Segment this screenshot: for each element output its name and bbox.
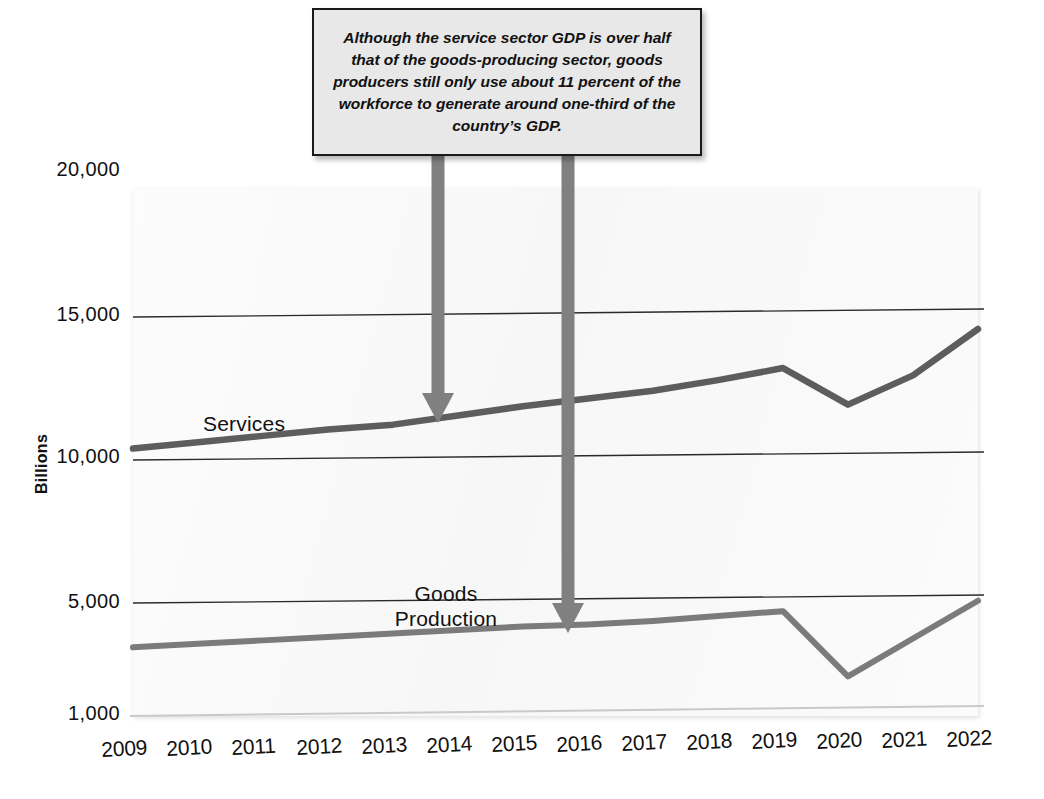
x-tick-label-2019: 2019 (751, 728, 798, 755)
x-axis-baseline (130, 706, 984, 716)
series-label-goods-line1: Goods (376, 582, 516, 606)
arrow-to-goods-shaft (562, 156, 575, 603)
x-tick-label-2018: 2018 (686, 729, 733, 756)
callout-arrows-group (422, 156, 584, 633)
x-tick-label-2017: 2017 (621, 729, 668, 756)
x-tick-label-2009: 2009 (101, 735, 148, 762)
gridlines-group (133, 309, 984, 603)
x-tick-label-2015: 2015 (491, 731, 538, 758)
x-tick-label-2013: 2013 (361, 732, 408, 759)
baseline-line (130, 706, 984, 716)
x-tick-label-2020: 2020 (816, 727, 863, 754)
series-label-services: Services (203, 412, 285, 436)
x-tick-label-2011: 2011 (231, 734, 277, 760)
x-tick-label-2012: 2012 (296, 733, 343, 760)
gridline-5000 (133, 595, 984, 603)
x-tick-label-2022: 2022 (946, 725, 993, 752)
x-tick-label-2016: 2016 (556, 730, 603, 757)
gridline-15000 (133, 309, 984, 317)
gridline-10000 (133, 452, 984, 460)
x-tick-label-2014: 2014 (426, 732, 473, 759)
arrow-to-services (422, 156, 454, 423)
arrow-to-services-shaft (432, 156, 445, 393)
arrow-to-goods (552, 156, 584, 633)
annotation-callout-box: Although the service sector GDP is over … (312, 8, 702, 156)
arrow-to-goods-head (552, 603, 584, 633)
annotation-callout-text: Although the service sector GDP is over … (314, 27, 700, 137)
series-goods-production (133, 601, 978, 677)
chart-figure: 20,000 15,000 10,000 5,000 1,000 Billion… (0, 0, 1044, 799)
series-label-goods-line2: Production (376, 607, 516, 631)
x-tick-label-2010: 2010 (166, 735, 213, 762)
x-tick-label-2021: 2021 (881, 726, 928, 753)
series-line-goods-production (133, 601, 978, 677)
